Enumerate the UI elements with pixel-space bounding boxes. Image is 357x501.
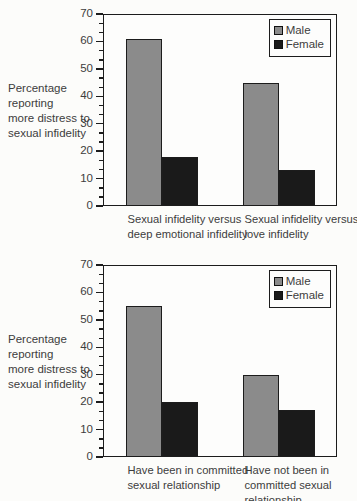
- male-series-swatch: [274, 26, 283, 35]
- y-major-tick: [96, 401, 103, 402]
- legend-item-female: Female: [274, 288, 324, 302]
- legend-label-female: Female: [286, 288, 324, 302]
- figure-two-bar-charts: Percentage reporting more distress to se…: [0, 0, 357, 501]
- y-tick-label: 20: [69, 395, 93, 407]
- category-label: Sexual infidelity versuslove infidelity: [245, 212, 357, 242]
- male-series-swatch: [274, 277, 283, 286]
- y-major-tick: [96, 319, 103, 320]
- legend-label-female: Female: [286, 37, 324, 51]
- y-minor-tick: [99, 141, 103, 142]
- y-minor-tick: [99, 32, 103, 33]
- legend-item-female: Female: [274, 37, 324, 51]
- y-major-tick: [96, 374, 103, 375]
- y-minor-tick: [99, 160, 103, 161]
- legend: Male Female: [269, 270, 331, 308]
- y-major-tick: [96, 429, 103, 430]
- y-minor-tick: [99, 87, 103, 88]
- y-major-tick: [96, 13, 103, 14]
- legend: Male Female: [269, 19, 331, 57]
- bar-chart-top: Percentage reporting more distress to se…: [0, 0, 357, 250]
- y-tick-label: 0: [69, 199, 93, 211]
- male-bar: [126, 39, 162, 206]
- y-major-tick: [96, 150, 103, 151]
- y-minor-tick: [99, 274, 103, 275]
- y-tick-label: 10: [69, 172, 93, 184]
- y-minor-tick: [99, 392, 103, 393]
- y-minor-tick: [99, 132, 103, 133]
- category-label: Have been in committedsexual relationshi…: [128, 463, 249, 493]
- category-label-line: sexual relationship: [128, 478, 249, 493]
- category-label-line: love infidelity: [245, 227, 357, 242]
- y-tick-label: 10: [69, 423, 93, 435]
- y-major-tick: [96, 347, 103, 348]
- y-major-tick: [96, 456, 103, 457]
- bar-chart-bottom: Percentage reporting more distress to se…: [0, 251, 357, 501]
- y-minor-tick: [99, 169, 103, 170]
- category-label-line: Have been in committed: [128, 463, 249, 478]
- y-major-tick: [96, 178, 103, 179]
- y-tick-label: 60: [69, 285, 93, 297]
- category-label-line: Sexual infidelity versus: [245, 212, 357, 227]
- female-bar: [279, 410, 315, 457]
- y-tick-label: 50: [69, 313, 93, 325]
- legend-item-male: Male: [274, 274, 324, 288]
- y-minor-tick: [99, 187, 103, 188]
- y-tick-label: 70: [69, 258, 93, 270]
- y-major-tick: [96, 205, 103, 206]
- y-minor-tick: [99, 196, 103, 197]
- y-minor-tick: [99, 447, 103, 448]
- y-tick-label: 40: [69, 340, 93, 352]
- legend-label-male: Male: [286, 23, 311, 37]
- y-minor-tick: [99, 59, 103, 60]
- y-minor-tick: [99, 283, 103, 284]
- category-label-line: committed sexual: [245, 478, 332, 493]
- category-label: Sexual infidelity versusdeep emotional i…: [128, 212, 248, 242]
- y-minor-tick: [99, 411, 103, 412]
- y-minor-tick: [99, 50, 103, 51]
- female-bar: [162, 402, 198, 457]
- category-label-line: Sexual infidelity versus: [128, 212, 248, 227]
- y-minor-tick: [99, 301, 103, 302]
- female-bar: [279, 170, 315, 206]
- female-series-swatch: [274, 291, 283, 300]
- category-label-line: relationship: [245, 493, 332, 501]
- y-major-tick: [96, 96, 103, 97]
- y-minor-tick: [99, 105, 103, 106]
- y-tick-label: 30: [69, 368, 93, 380]
- y-minor-tick: [99, 77, 103, 78]
- y-tick-label: 60: [69, 34, 93, 46]
- y-minor-tick: [99, 438, 103, 439]
- male-bar: [243, 83, 279, 206]
- category-label-line: Have not been in: [245, 463, 332, 478]
- y-tick-label: 70: [69, 7, 93, 19]
- y-major-tick: [96, 41, 103, 42]
- male-bar: [126, 306, 162, 457]
- y-minor-tick: [99, 420, 103, 421]
- y-major-tick: [96, 264, 103, 265]
- male-bar: [243, 375, 279, 457]
- y-tick-label: 0: [69, 450, 93, 462]
- y-major-tick: [96, 292, 103, 293]
- category-label: Have not been incommitted sexualrelation…: [245, 463, 332, 501]
- y-minor-tick: [99, 356, 103, 357]
- y-minor-tick: [99, 338, 103, 339]
- legend-item-male: Male: [274, 23, 324, 37]
- female-series-swatch: [274, 40, 283, 49]
- y-minor-tick: [99, 328, 103, 329]
- y-major-tick: [96, 123, 103, 124]
- y-minor-tick: [99, 23, 103, 24]
- y-minor-tick: [99, 114, 103, 115]
- y-tick-label: 50: [69, 62, 93, 74]
- legend-label-male: Male: [286, 274, 311, 288]
- y-tick-label: 20: [69, 144, 93, 156]
- y-minor-tick: [99, 310, 103, 311]
- female-bar: [162, 157, 198, 206]
- y-tick-label: 40: [69, 89, 93, 101]
- y-minor-tick: [99, 383, 103, 384]
- y-tick-label: 30: [69, 117, 93, 129]
- y-major-tick: [96, 68, 103, 69]
- category-label-line: deep emotional infidelity: [128, 227, 248, 242]
- y-minor-tick: [99, 365, 103, 366]
